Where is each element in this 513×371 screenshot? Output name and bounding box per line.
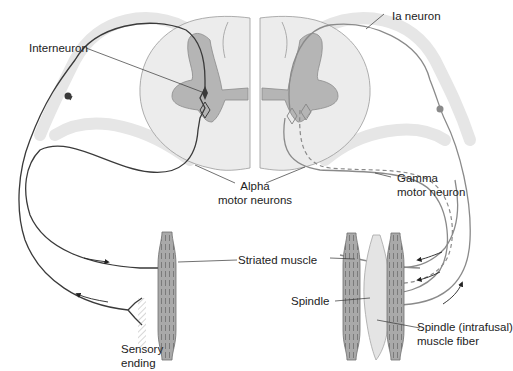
muscle-spindle	[364, 235, 391, 360]
label-ia-neuron: Ia neuron	[392, 9, 441, 23]
label-sensory-line1: Sensory	[121, 342, 163, 356]
left-striated-muscle	[158, 232, 176, 360]
label-sensory-ending: Sensory ending	[121, 342, 163, 370]
left-drg-soma	[65, 93, 72, 100]
right-striated-muscle-1	[343, 233, 360, 360]
label-spindle-intrafusal-fiber: Spindle (intrafusal) muscle fiber	[417, 320, 513, 348]
label-alpha-line1: Alpha	[212, 179, 298, 193]
nerve-sheaths	[40, 18, 470, 160]
tendon-hatch	[138, 298, 146, 348]
label-spindle: Spindle	[291, 294, 329, 308]
label-interneuron: Interneuron	[29, 41, 88, 55]
right-drg-soma	[437, 106, 444, 113]
label-alpha-motor-neurons: Alpha motor neurons	[212, 179, 298, 207]
label-gamma-line1: Gamma	[397, 171, 465, 185]
label-gamma-line2: motor neuron	[397, 185, 465, 199]
label-sensory-line2: ending	[121, 356, 163, 370]
label-spindle-fiber-line2: muscle fiber	[417, 334, 513, 348]
label-striated-muscle: Striated muscle	[238, 253, 317, 267]
label-spindle-fiber-line1: Spindle (intrafusal)	[417, 320, 513, 334]
label-alpha-line2: motor neurons	[212, 193, 298, 207]
label-gamma-motor-neuron: Gamma motor neuron	[397, 171, 465, 199]
right-striated-muscle-2	[387, 233, 404, 360]
